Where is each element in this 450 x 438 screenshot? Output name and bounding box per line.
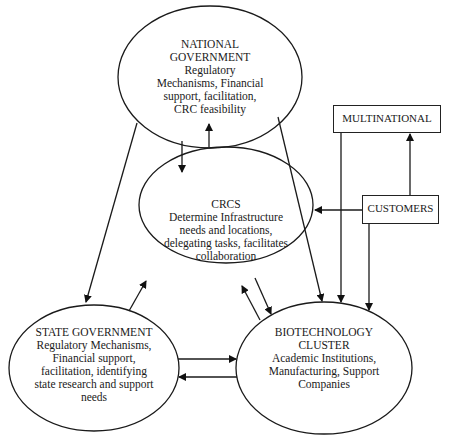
biotechnology-cluster-node: BIOTECHNOLOGY CLUSTER Academic Instituti… [244, 326, 404, 391]
arrow-biotech-to-crcs [242, 286, 260, 320]
biotech-desc-line: Companies [244, 378, 404, 391]
national-title-line1: NATIONAL [128, 38, 292, 51]
biotech-desc-line: Academic Institutions, [244, 352, 404, 365]
national-desc-line: CRC feasibility [128, 103, 292, 116]
crcs-desc-line: collaboration [141, 250, 311, 263]
biotech-title-line1: BIOTECHNOLOGY [244, 326, 404, 339]
state-desc-line: facilitation, identifying [14, 365, 174, 378]
customers-box: CUSTOMERS [362, 195, 439, 224]
state-desc-line: needs [14, 391, 174, 404]
crcs-desc-line: delegating tasks, facilitates [141, 237, 311, 250]
crcs-desc-line: needs and locations, [141, 224, 311, 237]
crcs-title: CRCS [141, 198, 311, 211]
national-desc-line: Mechanisms, Financial [128, 77, 292, 90]
national-title-line2: GOVERNMENT [128, 51, 292, 64]
arrow-state-to-crcs [129, 281, 146, 311]
customers-label: CUSTOMERS [368, 202, 434, 214]
state-desc-line: state research and support [14, 378, 174, 391]
national-desc-line: support, facilitation, [128, 90, 292, 103]
arrow-national-to-state [86, 123, 137, 302]
crcs-desc-line: Determine Infrastructure [141, 211, 311, 224]
arrow-crcs-to-biotech [255, 278, 271, 314]
crcs-node: CRCS Determine Infrastructure needs and … [141, 198, 311, 263]
national-government-node: NATIONAL GOVERNMENT Regulatory Mechanism… [128, 38, 292, 116]
multinational-label: MULTINATIONAL [342, 112, 431, 124]
biotech-desc-line: Manufacturing, Support [244, 365, 404, 378]
state-government-node: STATE GOVERNMENT Regulatory Mechanisms, … [14, 326, 174, 404]
biotech-title-line2: CLUSTER [244, 339, 404, 352]
state-title: STATE GOVERNMENT [14, 326, 174, 339]
multinational-box: MULTINATIONAL [333, 105, 441, 133]
state-desc-line: Financial support, [14, 352, 174, 365]
state-desc-line: Regulatory Mechanisms, [14, 339, 174, 352]
national-desc-line: Regulatory [128, 64, 292, 77]
